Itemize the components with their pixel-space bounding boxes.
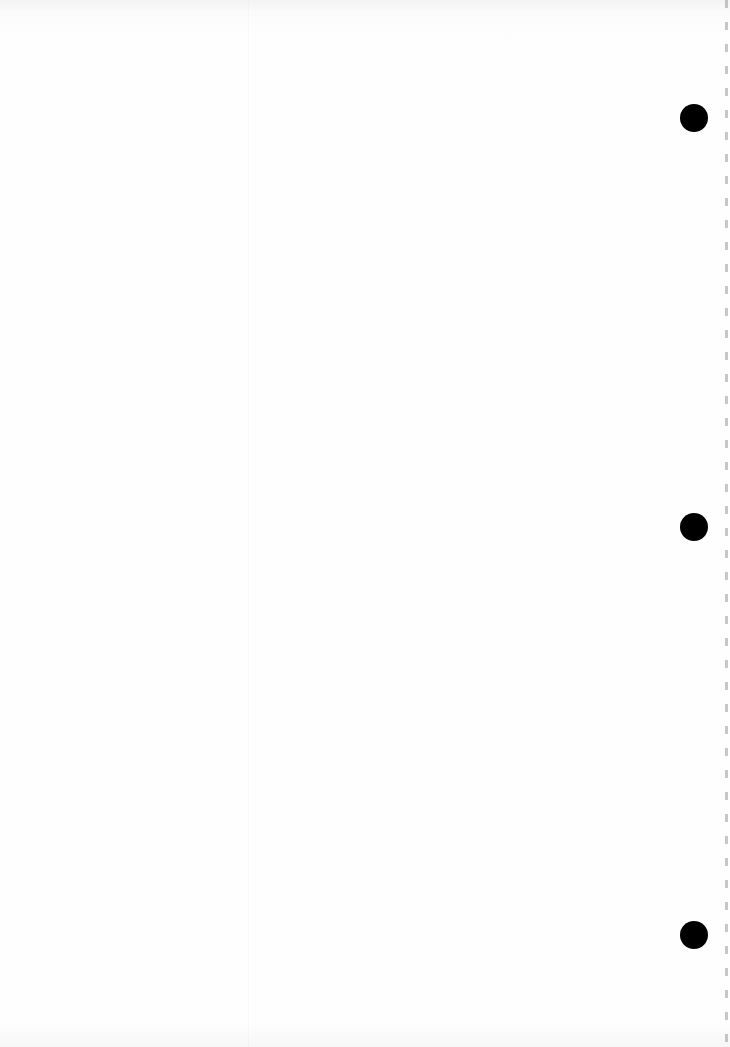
fold-line [248,0,249,1047]
hole-punch-top [680,104,708,132]
bleed-through-text [370,345,660,385]
torn-edge [725,0,728,1047]
hole-punch-middle [680,513,708,541]
blank-page [0,0,730,1047]
hole-punch-bottom [680,921,708,949]
